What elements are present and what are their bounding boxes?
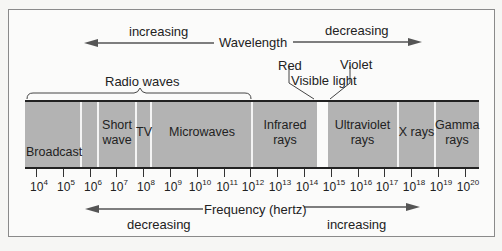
tick-label: 105 xyxy=(57,180,75,194)
tick-label-exponent: 20 xyxy=(470,178,479,187)
frequency-left-arrow xyxy=(85,205,203,213)
wavelength-decreasing-label: decreasing xyxy=(325,24,389,38)
tick-mark xyxy=(224,169,225,177)
tick-label: 1018 xyxy=(403,180,425,194)
shortwave-label-line2: wave xyxy=(98,133,136,148)
tick-label: 104 xyxy=(30,180,48,194)
shortwave-label: Short wave xyxy=(98,118,136,148)
tick-label: 1010 xyxy=(189,180,211,194)
tick-mark xyxy=(36,169,37,177)
tick-label-exponent: 16 xyxy=(363,178,372,187)
tick-label-exponent: 10 xyxy=(202,178,211,187)
tick-label: 108 xyxy=(137,180,155,194)
wavelength-title: Wavelength xyxy=(219,36,287,50)
shortwave-label-line1: Short xyxy=(98,118,136,133)
tick-label-exponent: 4 xyxy=(43,178,47,187)
tick-mark xyxy=(90,169,91,177)
tick-label-base: 10 xyxy=(84,180,97,194)
tick-label: 1016 xyxy=(350,180,372,194)
tick-label-base: 10 xyxy=(350,180,363,194)
tick-mark xyxy=(197,169,198,177)
tick-label: 1014 xyxy=(296,180,318,194)
tick-label-base: 10 xyxy=(57,180,70,194)
tv-label: TV xyxy=(136,125,151,140)
tick-label-exponent: 13 xyxy=(282,178,291,187)
tick-label-exponent: 19 xyxy=(443,178,452,187)
tick-mark xyxy=(250,169,251,177)
tick-label-exponent: 5 xyxy=(70,178,74,187)
tick-label-base: 10 xyxy=(269,180,282,194)
tick-mark xyxy=(384,169,385,177)
tick-mark xyxy=(170,169,171,177)
wavelength-increasing-label: increasing xyxy=(129,25,188,39)
tick-label-base: 10 xyxy=(30,180,43,194)
tick-mark xyxy=(358,169,359,177)
tick-label: 1019 xyxy=(430,180,452,194)
tick-label: 106 xyxy=(84,180,102,194)
tick-label-exponent: 14 xyxy=(309,178,318,187)
tick-label-base: 10 xyxy=(110,180,123,194)
tick-label-base: 10 xyxy=(242,180,255,194)
tick-mark xyxy=(331,169,332,177)
frequency-increasing-label: increasing xyxy=(327,218,386,232)
wavelength-right-arrow xyxy=(293,38,422,46)
frequency-right-arrow xyxy=(304,203,420,211)
frequency-decreasing-label: decreasing xyxy=(127,218,191,232)
infrared-label-line2: rays xyxy=(253,133,317,148)
tick-label-exponent: 17 xyxy=(389,178,398,187)
tick-label: 1020 xyxy=(457,180,479,194)
tick-label-exponent: 18 xyxy=(416,178,425,187)
tick-label-base: 10 xyxy=(376,180,389,194)
visible-light-label: Visible light xyxy=(291,74,357,88)
ultraviolet-label-line1: Ultraviolet xyxy=(328,118,397,133)
visible-light-gap xyxy=(317,102,328,167)
frequency-title: Frequency (hertz) xyxy=(204,203,307,217)
tick-label-base: 10 xyxy=(323,180,336,194)
tick-label-exponent: 15 xyxy=(336,178,345,187)
gamma-label-line1: Gamma xyxy=(435,118,479,133)
tick-mark xyxy=(116,169,117,177)
infrared-label: Infrared rays xyxy=(253,118,317,148)
tick-mark xyxy=(465,169,466,177)
broadcast-label: Broadcast xyxy=(26,145,82,160)
microwaves-label: Microwaves xyxy=(152,125,252,140)
violet-label: Violet xyxy=(340,58,372,72)
tick-label-exponent: 8 xyxy=(150,178,154,187)
tick-label-exponent: 11 xyxy=(230,178,238,187)
infrared-label-line1: Infrared xyxy=(253,118,317,133)
ultraviolet-label-line2: rays xyxy=(328,133,397,148)
tick-label-base: 10 xyxy=(189,180,202,194)
tick-mark xyxy=(411,169,412,177)
tick-label: 1013 xyxy=(269,180,291,194)
tick-label-exponent: 7 xyxy=(123,178,127,187)
red-label: Red xyxy=(278,59,302,73)
gamma-label-line2: rays xyxy=(435,133,479,148)
xrays-label: X rays xyxy=(398,125,435,140)
tick-label: 1012 xyxy=(242,180,264,194)
tick-mark xyxy=(438,169,439,177)
ultraviolet-label: Ultraviolet rays xyxy=(328,118,397,148)
tick-mark xyxy=(277,169,278,177)
tick-label-base: 10 xyxy=(137,180,150,194)
tick-label: 1015 xyxy=(323,180,345,194)
tick-label-exponent: 6 xyxy=(97,178,101,187)
tick-label-base: 10 xyxy=(403,180,416,194)
tick-mark xyxy=(63,169,64,177)
tick-label-base: 10 xyxy=(296,180,309,194)
radio-waves-bracket xyxy=(27,88,251,99)
tick-label: 1017 xyxy=(376,180,398,194)
tick-label: 107 xyxy=(110,180,128,194)
tick-label-exponent: 12 xyxy=(255,178,264,187)
tick-mark xyxy=(304,169,305,177)
tick-mark xyxy=(143,169,144,177)
tick-label-exponent: 9 xyxy=(177,178,181,187)
wavelength-left-arrow xyxy=(84,39,214,47)
tick-label: 109 xyxy=(164,180,182,194)
gamma-label: Gamma rays xyxy=(435,118,479,148)
tick-label-base: 10 xyxy=(430,180,443,194)
tick-label-base: 10 xyxy=(164,180,177,194)
tick-label-base: 10 xyxy=(216,180,229,194)
tick-label: 1011 xyxy=(216,180,238,194)
radio-waves-label: Radio waves xyxy=(105,75,179,89)
tick-label-base: 10 xyxy=(457,180,470,194)
